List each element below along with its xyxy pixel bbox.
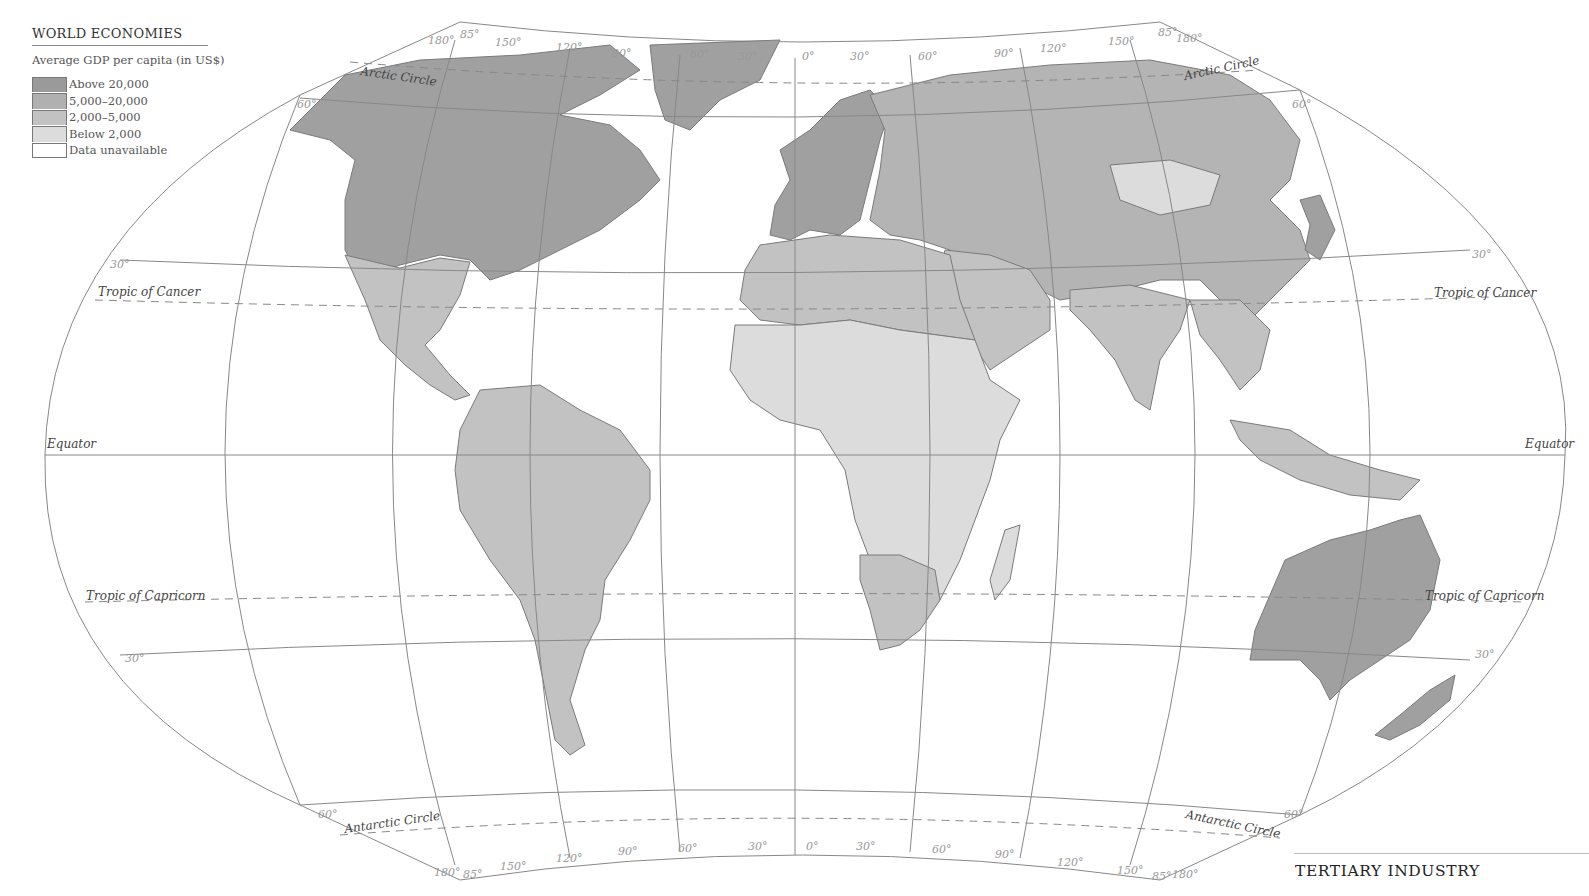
svg-text:30°: 30° [1472,248,1492,261]
svg-text:150°: 150° [1108,35,1135,48]
svg-text:60°: 60° [678,842,698,855]
equator-label-left: Equator [46,437,97,451]
svg-text:180°: 180° [1172,868,1199,881]
svg-text:30°: 30° [856,840,876,853]
svg-text:60°: 60° [932,843,952,856]
legend: WORLD ECONOMIES Average GDP per capita (… [32,26,232,159]
swatch-2000-5000 [32,110,67,126]
svg-text:30°: 30° [1475,648,1495,661]
tropic-of-capricorn-label-right: Tropic of Capricorn [1425,589,1545,603]
legend-subtitle: Average GDP per capita (in US$) [32,53,232,67]
legend-title: WORLD ECONOMIES [32,26,208,46]
legend-item-below-2000: Below 2,000 [32,126,232,143]
legend-item-5000-20000: 5,000–20,000 [32,93,232,110]
legend-item-above-20000: Above 20,000 [32,76,232,93]
section-divider [1294,853,1589,854]
svg-text:30°: 30° [850,50,870,63]
svg-text:60°: 60° [1284,808,1304,821]
svg-text:30°: 30° [748,840,768,853]
svg-text:60°: 60° [297,98,317,111]
tropic-of-cancer-label-right: Tropic of Cancer [1434,286,1537,300]
svg-text:150°: 150° [500,860,527,873]
svg-text:60°: 60° [1292,98,1312,111]
legend-list: Above 20,000 5,000–20,000 2,000–5,000 Be… [32,76,232,159]
svg-text:180°: 180° [1176,32,1203,45]
svg-text:30°: 30° [738,50,758,63]
svg-text:60°: 60° [318,808,338,821]
svg-text:120°: 120° [1040,42,1067,55]
svg-text:90°: 90° [612,47,632,60]
svg-text:85°: 85° [460,28,480,41]
svg-text:0°: 0° [802,50,815,63]
svg-text:180°: 180° [434,866,461,879]
svg-text:60°: 60° [690,48,710,61]
swatch-below-2000 [32,126,67,142]
equator-label-right: Equator [1524,437,1575,451]
svg-text:85°: 85° [1158,26,1178,39]
swatch-data-unavailable [32,143,67,159]
svg-text:150°: 150° [1117,864,1144,877]
swatch-5000-20000 [32,93,67,109]
section-title: TERTIARY INDUSTRY [1295,862,1480,880]
svg-text:90°: 90° [618,845,638,858]
svg-text:90°: 90° [994,47,1014,60]
svg-text:120°: 120° [556,852,583,865]
swatch-above-20000 [32,77,67,93]
svg-text:30°: 30° [110,258,130,271]
svg-text:30°: 30° [125,652,145,665]
svg-text:85°: 85° [463,868,483,881]
svg-text:85°: 85° [1152,870,1172,883]
svg-text:120°: 120° [1057,856,1084,869]
svg-text:90°: 90° [995,848,1015,861]
svg-text:150°: 150° [495,36,522,49]
tropic-of-capricorn-label-left: Tropic of Capricorn [86,589,206,603]
tropic-of-cancer-label-left: Tropic of Cancer [98,285,201,299]
legend-item-data-unavailable: Data unavailable [32,142,232,159]
legend-item-2000-5000: 2,000–5,000 [32,109,232,126]
svg-text:180°: 180° [428,34,455,47]
svg-text:60°: 60° [918,50,938,63]
svg-text:0°: 0° [806,840,819,853]
world-map: Arctic Circle Arctic Circle Tropic of Ca… [0,0,1589,896]
svg-text:120°: 120° [556,41,583,54]
